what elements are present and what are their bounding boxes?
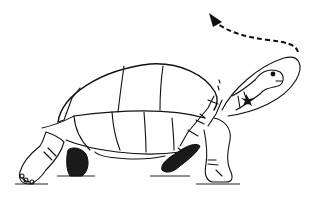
hind-right-leg: [67, 148, 88, 176]
head-outline: [222, 57, 300, 116]
front-left-leg: [204, 118, 232, 182]
front-right-leg: [162, 96, 222, 172]
dashed-arrow-icon: [209, 13, 298, 52]
tortoise-drawing: [0, 0, 316, 197]
illustration-canvas: [0, 0, 316, 197]
